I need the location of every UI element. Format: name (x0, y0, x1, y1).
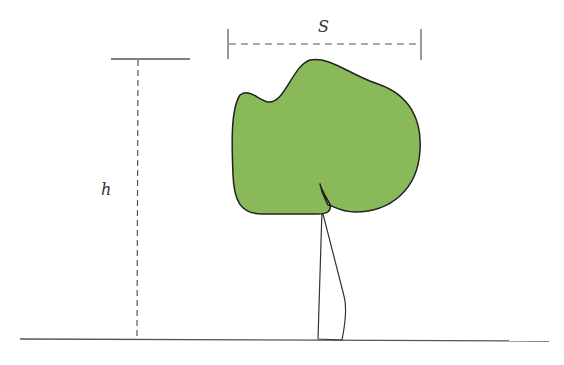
height-dimension-line (137, 60, 138, 339)
tree-diagram (0, 0, 564, 365)
crown-width-label: S (318, 17, 329, 36)
ground-line (20, 339, 549, 341)
tree-canopy (232, 59, 420, 214)
tree-trunk (318, 210, 346, 340)
tree-height-label: h (101, 180, 111, 199)
